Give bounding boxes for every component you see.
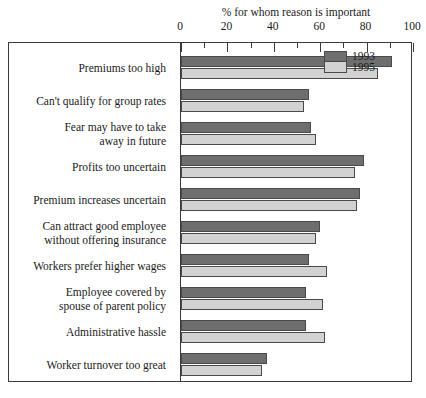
bar-1995 bbox=[181, 200, 357, 211]
bar-pair bbox=[181, 85, 411, 118]
x-tick-major bbox=[181, 43, 182, 52]
bar-1995 bbox=[181, 299, 323, 310]
bar-rows: Premiums too highCan't qualify for group… bbox=[9, 52, 411, 381]
x-tick-minor bbox=[204, 43, 205, 48]
category-label: Premium increases uncertain bbox=[9, 184, 172, 217]
category-label-line: Can attract good employee bbox=[42, 220, 166, 234]
category-label-line: away in future bbox=[100, 135, 166, 149]
x-tick-label: 0 bbox=[177, 20, 183, 33]
category-label-line: Worker turnover too great bbox=[47, 359, 166, 373]
bar-1993 bbox=[181, 221, 320, 232]
bar-1995 bbox=[181, 266, 327, 277]
axis-title: % for whom reason is important bbox=[180, 6, 412, 19]
bar-1995 bbox=[181, 134, 316, 145]
category-label-line: without offering insurance bbox=[44, 234, 166, 248]
x-axis-tick-labels: 020406080100 bbox=[0, 20, 426, 34]
bar-row: Premium increases uncertain bbox=[9, 184, 411, 217]
x-tick-major bbox=[320, 43, 321, 52]
bar-1995 bbox=[181, 101, 304, 112]
category-label-line: Workers prefer higher wages bbox=[33, 260, 166, 274]
bar-1993 bbox=[181, 320, 306, 331]
bar-pair bbox=[181, 52, 411, 85]
bar-pair bbox=[181, 349, 411, 382]
bar-row: Profits too uncertain bbox=[9, 151, 411, 184]
x-tick-minor bbox=[251, 43, 252, 48]
bar-1993 bbox=[181, 254, 309, 265]
category-label-line: Profits too uncertain bbox=[72, 161, 166, 175]
category-label: Premiums too high bbox=[9, 52, 172, 85]
x-tick-label: 40 bbox=[267, 20, 279, 33]
bar-1995 bbox=[181, 233, 316, 244]
bar-1995 bbox=[181, 332, 325, 343]
category-label: Worker turnover too great bbox=[9, 349, 172, 382]
category-label-line: Can't qualify for group rates bbox=[36, 95, 166, 109]
bar-pair bbox=[181, 151, 411, 184]
category-label-line: Premiums too high bbox=[78, 62, 166, 76]
x-tick-major bbox=[413, 43, 414, 52]
bar-1995 bbox=[181, 365, 262, 376]
bar-row: Fear may have to takeaway in future bbox=[9, 118, 411, 151]
category-label-line: Premium increases uncertain bbox=[33, 194, 166, 208]
x-tick-label: 100 bbox=[403, 20, 420, 33]
bar-1995 bbox=[181, 167, 355, 178]
bar-pair bbox=[181, 316, 411, 349]
category-label-line: Employee covered by bbox=[66, 286, 166, 300]
bar-pair bbox=[181, 184, 411, 217]
x-tick-label: 60 bbox=[313, 20, 325, 33]
bar-row: Can attract good employeewithout offerin… bbox=[9, 217, 411, 250]
x-tick-label: 20 bbox=[221, 20, 233, 33]
bar-1993 bbox=[181, 287, 306, 298]
legend-swatch-1993 bbox=[324, 51, 347, 62]
category-label: Can attract good employeewithout offerin… bbox=[9, 217, 172, 250]
bar-1993 bbox=[181, 155, 364, 166]
legend-entry: 1995 bbox=[324, 62, 375, 73]
bar-1993 bbox=[181, 188, 360, 199]
bar-row: Employee covered byspouse of parent poli… bbox=[9, 283, 411, 316]
bar-row: Workers prefer higher wages bbox=[9, 250, 411, 283]
legend-swatch-1995 bbox=[324, 62, 347, 73]
x-tick-label: 80 bbox=[360, 20, 372, 33]
bar-pair bbox=[181, 217, 411, 250]
category-label: Workers prefer higher wages bbox=[9, 250, 172, 283]
category-label-line: Administrative hassle bbox=[66, 326, 166, 340]
category-label-line: Fear may have to take bbox=[64, 121, 166, 135]
category-label: Employee covered byspouse of parent poli… bbox=[9, 283, 172, 316]
bar-pair bbox=[181, 250, 411, 283]
category-label-line: spouse of parent policy bbox=[59, 300, 166, 314]
x-tick-major bbox=[274, 43, 275, 52]
category-label: Fear may have to takeaway in future bbox=[9, 118, 172, 151]
x-tick-minor bbox=[343, 43, 344, 48]
chart-plot-frame: Premiums too highCan't qualify for group… bbox=[8, 42, 412, 382]
x-tick-major bbox=[227, 43, 228, 52]
bar-row: Worker turnover too great bbox=[9, 349, 411, 382]
bar-1993 bbox=[181, 353, 267, 364]
category-label: Profits too uncertain bbox=[9, 151, 172, 184]
bar-pair bbox=[181, 118, 411, 151]
legend-label: 1995 bbox=[352, 62, 375, 73]
chart-legend: 19931995 bbox=[324, 51, 375, 73]
bar-1993 bbox=[181, 122, 311, 133]
category-label: Can't qualify for group rates bbox=[9, 85, 172, 118]
bar-row: Can't qualify for group rates bbox=[9, 85, 411, 118]
bar-1993 bbox=[181, 89, 309, 100]
bar-pair bbox=[181, 283, 411, 316]
x-tick-minor bbox=[297, 43, 298, 48]
category-label: Administrative hassle bbox=[9, 316, 172, 349]
x-tick-minor bbox=[390, 43, 391, 48]
bar-row: Administrative hassle bbox=[9, 316, 411, 349]
